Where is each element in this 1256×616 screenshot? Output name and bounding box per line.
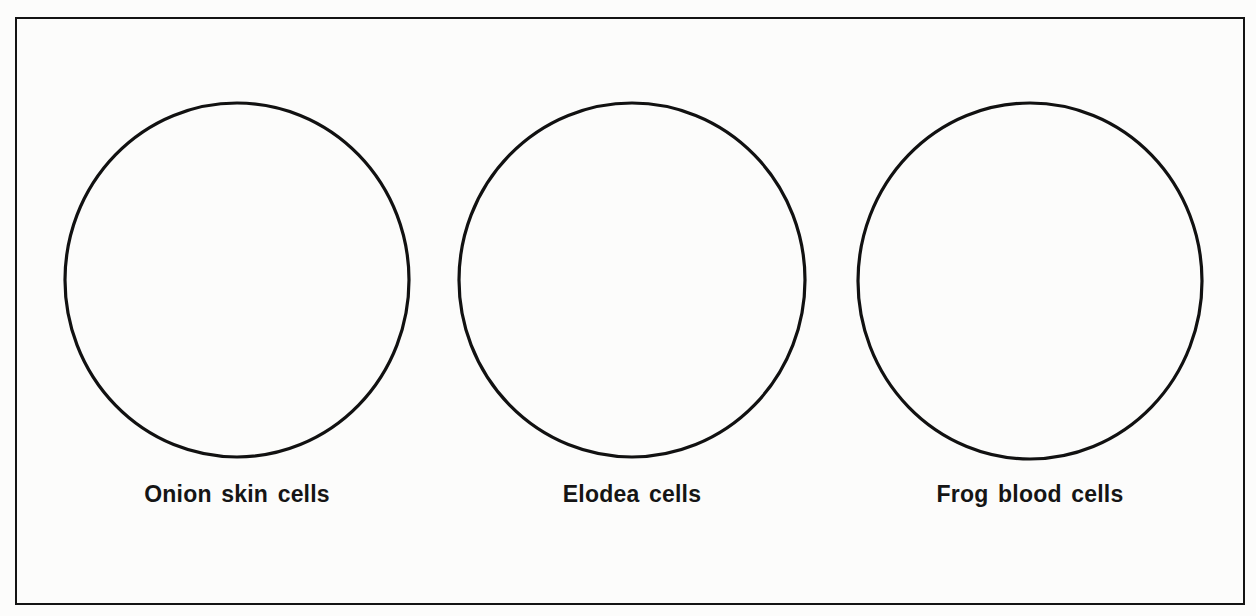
- onion-skin-cells-label: Onion skin cells: [67, 481, 407, 508]
- onion-skin-drawing-circle: [65, 103, 409, 457]
- frog-blood-drawing-circle: [858, 103, 1202, 459]
- drawing-circles: [0, 0, 1256, 616]
- worksheet-figure: Onion skin cells Elodea cells Frog blood…: [0, 0, 1256, 616]
- elodea-drawing-circle: [459, 103, 805, 457]
- frog-blood-cells-label: Frog blood cells: [860, 481, 1200, 508]
- elodea-cells-label: Elodea cells: [462, 481, 802, 508]
